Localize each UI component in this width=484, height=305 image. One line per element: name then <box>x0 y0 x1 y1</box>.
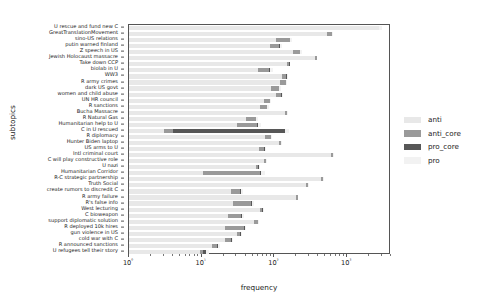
bar-segment-anti <box>129 129 164 133</box>
x-axis-title: frequency <box>128 283 390 292</box>
y-tick-mark <box>121 184 124 185</box>
x-tick-mark <box>273 254 274 257</box>
bar-row <box>129 141 282 145</box>
x-minor-tick <box>381 254 382 256</box>
x-minor-tick <box>335 254 336 256</box>
y-tick-mark <box>121 214 124 215</box>
y-tick-label: U refugees tell their story <box>53 248 118 253</box>
bar-segment-pro <box>256 117 258 121</box>
x-minor-tick <box>317 254 318 256</box>
y-tick-mark <box>121 99 124 100</box>
x-minor-tick <box>235 254 236 256</box>
bar-segment-pro <box>270 68 272 72</box>
y-tick-mark <box>121 142 124 143</box>
y-tick-mark <box>121 87 124 88</box>
bar-segment-anti_core <box>233 201 251 205</box>
y-tick-mark <box>121 251 124 252</box>
bar-segment-anti_core <box>271 86 279 90</box>
bar-segment-pro <box>285 129 289 133</box>
x-minor-tick <box>295 254 296 256</box>
bar-row <box>129 86 281 90</box>
bar-row <box>129 226 246 230</box>
x-minor-tick <box>262 254 263 256</box>
y-axis-tick-labels: U rescue and fund new CGreatTranslationM… <box>0 24 124 254</box>
bar-segment-pro <box>245 226 247 230</box>
bar-segment-anti <box>129 74 282 78</box>
bar-segment-anti <box>129 147 259 151</box>
bar-segment-pro <box>218 244 220 248</box>
bar-row <box>129 56 317 60</box>
bar-row <box>129 123 261 127</box>
bar-segment-pro <box>266 159 267 163</box>
bar-segment-anti <box>129 244 212 248</box>
legend-item-anti_core[interactable]: anti_core <box>404 127 480 141</box>
bar-row <box>129 93 283 97</box>
bar-segment-pro <box>241 189 243 193</box>
x-minor-tick <box>163 254 164 256</box>
chart-page: U rescue and fund new CGreatTranslationM… <box>0 0 484 305</box>
y-tick-mark <box>121 208 124 209</box>
x-minor-tick <box>197 254 198 256</box>
y-tick-mark <box>121 57 124 58</box>
x-tick-label: 10² <box>268 258 278 267</box>
bar-segment-anti_core <box>164 129 173 133</box>
y-tick-mark <box>121 160 124 161</box>
bar-row <box>129 74 288 78</box>
x-tick-mark <box>201 254 202 257</box>
bar-segment-pro <box>279 86 281 90</box>
y-tick-mark <box>121 202 124 203</box>
bar-segment-anti <box>129 165 256 169</box>
bar-segment-anti <box>129 195 296 199</box>
bar-row <box>129 117 258 121</box>
bar-segment-anti <box>129 117 246 121</box>
bar-segment-anti <box>129 93 276 97</box>
legend-label: pro_core <box>428 142 459 151</box>
bar-segment-anti <box>129 105 260 109</box>
bar-segment-anti_core <box>246 117 255 121</box>
bar-segment-anti <box>129 159 264 163</box>
y-tick-mark <box>121 196 124 197</box>
y-tick-mark <box>121 136 124 137</box>
x-minor-tick <box>324 254 325 256</box>
y-tick-mark <box>121 166 124 167</box>
bar-row <box>129 105 269 109</box>
x-minor-tick <box>390 254 391 256</box>
y-tick-mark <box>121 33 124 34</box>
bar-segment-pro <box>280 44 282 48</box>
bar-segment-anti_core <box>231 189 241 193</box>
y-tick-mark <box>121 69 124 70</box>
x-minor-tick <box>339 254 340 256</box>
bar-row <box>129 68 273 72</box>
x-minor-tick <box>194 254 195 256</box>
y-tick-mark <box>121 154 124 155</box>
y-tick-mark <box>121 117 124 118</box>
bar-row <box>129 62 290 66</box>
bar-segment-anti <box>129 171 203 175</box>
bar-segment-pro <box>332 32 333 36</box>
bar-segment-pro <box>261 171 265 175</box>
y-tick-mark <box>121 220 124 221</box>
legend-item-pro[interactable]: pro <box>404 154 480 168</box>
y-tick-mark <box>121 245 124 246</box>
y-tick-mark <box>121 190 124 191</box>
plot-area <box>128 24 390 254</box>
x-minor-tick <box>172 254 173 256</box>
bar-segment-pro <box>379 26 382 30</box>
bar-row <box>129 26 382 30</box>
bar-row <box>129 183 309 187</box>
bar-segment-anti_core <box>228 214 241 218</box>
bar-segment-pro <box>258 123 261 127</box>
legend-item-pro_core[interactable]: pro_core <box>404 140 480 154</box>
bar-segment-pro <box>290 38 292 42</box>
y-tick-mark <box>121 226 124 227</box>
x-minor-tick <box>252 254 253 256</box>
bar-segment-pro_core <box>173 129 285 133</box>
bar-row <box>129 129 289 133</box>
y-tick-mark <box>121 130 124 131</box>
x-minor-tick <box>245 254 246 256</box>
bar-segment-anti <box>129 153 331 157</box>
legend: antianti_corepro_corepro <box>404 113 480 167</box>
bar-segment-pro <box>241 232 242 236</box>
legend-item-anti[interactable]: anti <box>404 113 480 127</box>
y-tick-mark <box>121 111 124 112</box>
